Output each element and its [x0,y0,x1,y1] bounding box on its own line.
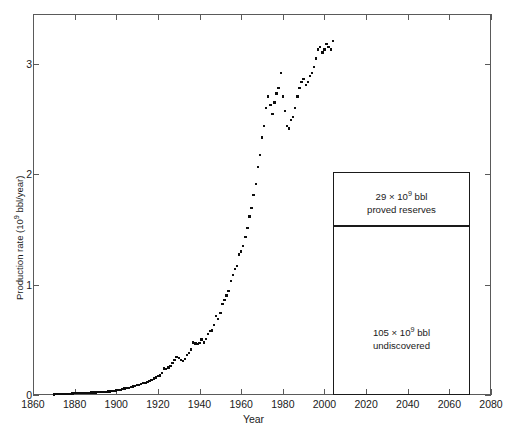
x-tick-1920 [158,14,159,20]
data-point [169,365,171,367]
data-point [182,360,184,362]
y-tick-label-0: 0 [20,389,32,401]
x-tick-label-1920: 1920 [146,398,169,410]
data-point [232,274,234,276]
data-point [203,341,205,343]
y-axis-title-tail: bbl/year) [14,176,25,216]
data-point [315,57,317,59]
data-point [219,312,221,314]
y-tick-3 [485,64,491,65]
x-tick-2080 [491,14,492,20]
x-tick-label-1960: 1960 [229,398,252,410]
x-tick-2000 [324,14,325,20]
x-tick-2040 [408,14,409,20]
data-point [271,113,273,115]
x-tick-1860 [33,14,34,20]
y-tick-3 [33,64,39,65]
data-point [211,329,213,331]
x-tick-1980 [283,389,284,395]
y-axis-title: Production rate (109 bbl/year) [12,176,25,300]
y-tick-0 [33,395,39,396]
data-point [244,236,246,238]
x-tick-label-2060: 2060 [438,398,461,410]
data-point [317,48,319,50]
proved-reserves-box-quantity-post: bbl [412,191,427,202]
data-point [298,87,300,89]
data-point [217,318,219,320]
x-tick-label-2080: 2080 [479,398,502,410]
data-point [159,374,161,376]
data-point [173,359,175,361]
data-point [307,81,309,83]
undiscovered-box-caption: undiscovered [334,339,469,352]
data-point [284,110,286,112]
y-tick-1 [485,285,491,286]
data-point [190,348,192,350]
data-point [259,154,261,156]
data-point [171,362,173,364]
data-point [263,125,265,127]
data-point [311,72,313,74]
x-tick-1980 [283,14,284,20]
data-point [221,303,223,305]
proved-reserves-box-caption: proved reserves [334,203,469,216]
undiscovered-box: 105 × 109 bblundiscovered [333,226,470,395]
data-point [273,101,275,103]
x-tick-1940 [200,14,201,20]
proved-reserves-box-label: 29 × 109 bblproved reserves [334,187,469,216]
data-point [246,227,248,229]
x-tick-2060 [449,14,450,20]
undiscovered-box-quantity: 105 × 109 bbl [334,323,469,339]
data-point [255,183,257,185]
data-point [236,265,238,267]
data-point [261,136,263,138]
y-tick-0 [485,395,491,396]
data-point [319,46,321,48]
data-point [188,352,190,354]
data-point [265,107,267,109]
x-tick-label-1940: 1940 [188,398,211,410]
data-point [282,95,284,97]
data-point [161,372,163,374]
x-tick-label-1880: 1880 [63,398,86,410]
x-tick-1900 [116,14,117,20]
data-point [234,268,236,270]
x-tick-2000 [324,389,325,395]
data-point [252,194,254,196]
data-point [223,299,225,301]
data-point [250,207,252,209]
data-point [277,87,279,89]
data-point [269,104,271,106]
data-point [309,75,311,77]
data-point [300,81,302,83]
y-tick-1 [33,285,39,286]
undiscovered-box-quantity-pre: 105 × 10 [373,327,411,338]
y-tick-2 [485,174,491,175]
data-point [313,66,315,68]
data-point [305,84,307,86]
data-point [321,51,323,53]
data-point [296,95,298,97]
data-point [198,342,200,344]
y-axis-title-pre: Production rate (10 [14,219,25,300]
data-point [332,40,334,42]
data-point [242,245,244,247]
x-tick-label-1900: 1900 [105,398,128,410]
data-point [290,119,292,121]
data-point [186,354,188,356]
data-point [288,127,290,129]
data-point [184,358,186,360]
data-point [205,338,207,340]
data-point [302,78,304,80]
undiscovered-box-quantity-post: bbl [415,327,430,338]
y-tick-label-3: 3 [20,58,32,70]
x-tick-label-2040: 2040 [396,398,419,410]
data-point [280,72,282,74]
figure-root: 1860188019001920194019601980200020202040… [0,0,507,431]
data-point [238,253,240,255]
data-point [267,95,269,97]
x-tick-label-2000: 2000 [313,398,336,410]
data-point [323,48,325,50]
data-point [330,48,332,50]
y-axis-title-exponent: 9 [12,215,21,219]
